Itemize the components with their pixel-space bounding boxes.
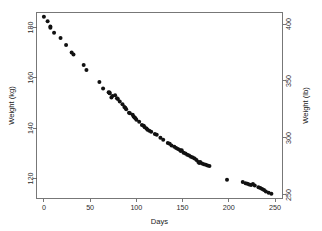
y-axis-left-ticks [33, 28, 37, 179]
y-axis-left-tick-label: 140 [26, 122, 35, 134]
data-points-layer [42, 15, 274, 196]
x-axis-tick-label: 50 [86, 203, 94, 212]
data-point [108, 90, 112, 94]
data-point [124, 107, 128, 111]
y-axis-left-tick-label: 120 [26, 172, 35, 184]
data-point [64, 43, 68, 47]
x-axis-tick-label: 100 [130, 203, 142, 212]
y-axis-left-tick-label: 180 [26, 22, 35, 34]
data-point [137, 120, 141, 124]
data-point [101, 86, 105, 90]
x-axis-ticks [44, 199, 275, 203]
data-point [149, 130, 153, 134]
data-point [269, 192, 273, 196]
y-axis-left-tick-labels: 120140160180 [26, 22, 35, 185]
y-axis-right-tick-label: 300 [284, 132, 293, 144]
data-point [84, 68, 88, 72]
x-axis-tick-labels: 050100150200250 [42, 203, 281, 212]
y-axis-left-title: Weight (kg) [7, 86, 16, 125]
y-axis-right-tick-labels: 250300350400 [284, 18, 293, 201]
x-axis-title: Days [151, 217, 169, 226]
data-point [71, 52, 75, 56]
data-point [155, 133, 159, 137]
plot-frame-box [37, 13, 283, 199]
y-axis-right-title: Weight (lb) [301, 87, 310, 124]
y-axis-left-tick-label: 160 [26, 72, 35, 84]
scatter-plot-canvas: 120140160180 250300350400 05010015020025… [0, 0, 322, 231]
x-axis-tick-label: 0 [42, 203, 46, 212]
data-point [161, 138, 165, 142]
data-point [48, 26, 52, 30]
x-axis-tick-label: 250 [269, 203, 281, 212]
y-axis-right-tick-label: 350 [284, 75, 293, 87]
weight-loss-chart-figure: 120140160180 250300350400 05010015020025… [0, 0, 322, 231]
data-point [46, 19, 50, 23]
y-axis-right-ticks [283, 24, 287, 195]
y-axis-right-tick-label: 250 [284, 189, 293, 201]
x-axis-tick-label: 200 [223, 203, 235, 212]
y-axis-right-tick-label: 400 [284, 18, 293, 30]
y-axis-right: 250300350400 [283, 18, 294, 201]
data-point [59, 36, 63, 40]
data-point [52, 31, 56, 35]
data-point [207, 164, 211, 168]
x-axis-bottom: 050100150200250 [42, 199, 281, 213]
data-point [42, 15, 46, 19]
y-axis-left: 120140160180 [26, 22, 36, 185]
data-point [82, 63, 86, 67]
data-point [253, 183, 257, 187]
x-axis-tick-label: 150 [177, 203, 189, 212]
data-point [97, 80, 101, 84]
data-point [225, 178, 229, 182]
